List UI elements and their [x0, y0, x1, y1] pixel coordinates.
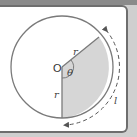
angle-label: θ: [67, 67, 73, 78]
circle-sector-diagram: O θ r r l: [0, 0, 137, 137]
radius-bottom-label: r: [54, 89, 60, 100]
arc-length-label: l: [114, 95, 117, 106]
diagram-frame: O θ r r l: [0, 0, 137, 137]
center-label: O: [53, 62, 62, 74]
